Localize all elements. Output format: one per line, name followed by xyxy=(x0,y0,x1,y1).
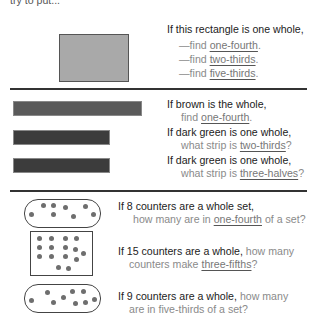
counter-dot xyxy=(56,265,61,270)
question-prefix: what strip is xyxy=(181,167,240,179)
find-item-1: —find one-fourth. xyxy=(179,39,261,52)
strip-prompt-3: If dark green is one whole, xyxy=(167,154,291,167)
find-prefix: —find xyxy=(179,67,210,79)
question-suffix: ? xyxy=(251,258,257,270)
prompt-main: If 15 counters are a whole, xyxy=(118,245,243,257)
question-prefix: how many are in xyxy=(133,213,214,225)
fraction-term: one-fourth xyxy=(210,39,258,51)
counter-dot xyxy=(83,300,88,305)
counter-dot xyxy=(71,214,76,219)
fraction-term: three-halves xyxy=(240,167,298,179)
counter-set-15 xyxy=(30,231,93,276)
counter-set-8 xyxy=(24,199,101,228)
question-suffix: ? xyxy=(298,167,304,179)
counter-dot xyxy=(91,212,96,217)
set-question-2: counters make three-fifths? xyxy=(129,258,257,271)
counter-dot xyxy=(74,236,79,241)
fraction-term: two-thirds xyxy=(210,53,256,65)
counter-dot xyxy=(37,254,42,259)
counter-dot xyxy=(63,205,68,210)
strip-question-3: what strip is three-halves? xyxy=(181,167,304,180)
fraction-term: five-thirds xyxy=(210,67,256,79)
counter-dot xyxy=(49,254,54,259)
counter-dot xyxy=(51,203,56,208)
find-prefix: —find xyxy=(179,53,210,65)
counter-dot xyxy=(49,245,54,250)
set-prompt-2: If 15 counters are a whole, how many xyxy=(118,245,294,258)
counter-dot xyxy=(51,212,56,217)
fraction-term: three-fifths xyxy=(201,258,251,270)
strip-question-1: find one-fourth. xyxy=(181,111,252,124)
counter-dot xyxy=(66,266,71,271)
counter-dot xyxy=(29,212,34,217)
counter-dot xyxy=(41,203,46,208)
counter-dot xyxy=(73,247,78,252)
counter-dot xyxy=(83,204,88,209)
prompt-continuation: how many xyxy=(243,245,294,257)
counter-dot xyxy=(92,297,97,302)
dark-green-strip-2 xyxy=(13,158,110,173)
question-prefix: what strip is xyxy=(181,139,240,151)
counter-dot xyxy=(81,289,86,294)
fraction-term: one-fourth xyxy=(214,213,262,225)
counter-dot xyxy=(45,290,50,295)
counter-dot xyxy=(74,257,79,262)
question-prefix: find xyxy=(181,111,201,123)
counter-dot xyxy=(37,236,42,241)
counter-dot xyxy=(63,254,68,259)
question-suffix: . xyxy=(249,111,252,123)
set-question-1: how many are in one-fourth of a set? xyxy=(133,213,306,226)
question-prefix: counters make xyxy=(129,258,201,270)
find-prefix: —find xyxy=(179,39,210,51)
section-divider-2 xyxy=(10,190,307,192)
counter-dot xyxy=(37,245,42,250)
counter-dot xyxy=(61,295,66,300)
counter-dot xyxy=(81,251,86,256)
cut-off-heading: try to put... xyxy=(10,0,60,7)
find-suffix: . xyxy=(258,39,261,51)
fraction-term: two-thirds xyxy=(240,139,286,151)
prompt-continuation: how many xyxy=(237,290,288,302)
section-divider-1 xyxy=(10,88,307,90)
find-suffix: . xyxy=(256,53,259,65)
question-suffix: ? xyxy=(286,139,292,151)
rectangle-prompt: If this rectangle is one whole, xyxy=(167,23,304,36)
whole-rectangle xyxy=(59,34,129,82)
counter-dot xyxy=(49,236,54,241)
prompt-main: If 9 counters are a whole, xyxy=(118,290,237,302)
question-suffix: of a set? xyxy=(262,213,306,225)
strip-prompt-2: If dark green is one whole, xyxy=(167,126,291,139)
counter-dot xyxy=(29,298,34,303)
find-suffix: . xyxy=(256,67,259,79)
find-item-2: —find two-thirds. xyxy=(179,53,259,66)
fraction-term: one-fourth xyxy=(201,111,249,123)
dark-green-strip-1 xyxy=(13,130,110,145)
counter-dot xyxy=(63,245,68,250)
counter-dot xyxy=(73,301,78,306)
set-prompt-3: If 9 counters are a whole, how many xyxy=(118,290,288,303)
counter-dot xyxy=(51,300,56,305)
set-question-3: are in five-thirds of a set? xyxy=(129,303,248,314)
counter-set-9 xyxy=(24,284,101,313)
find-item-3: —find five-thirds. xyxy=(179,67,259,80)
counter-dot xyxy=(63,236,68,241)
set-prompt-1: If 8 counters are a whole set, xyxy=(118,200,254,213)
brown-strip xyxy=(13,101,142,116)
counter-dot xyxy=(70,289,75,294)
strip-prompt-1: If brown is the whole, xyxy=(167,98,267,111)
strip-question-2: what strip is two-thirds? xyxy=(181,139,292,152)
